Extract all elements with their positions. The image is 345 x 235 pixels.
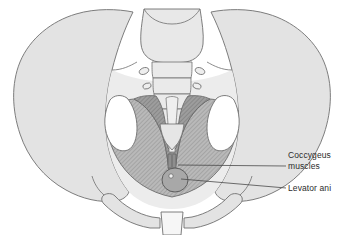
label-levator-ani: Levator ani — [288, 183, 331, 194]
left-sacral-ala — [112, 62, 137, 70]
pelvis-diagram — [0, 0, 345, 235]
anatomical-figure: Coccygeus muscles Levator ani — [0, 0, 345, 235]
label-coccygeus-muscles: Coccygeus muscles — [288, 150, 331, 171]
label-coccygeus-line1: Coccygeus — [288, 150, 331, 161]
label-levator-line1: Levator ani — [288, 183, 331, 194]
sacrum-upper — [141, 9, 204, 63]
pubic-symphysis — [161, 212, 183, 235]
right-sacral-ala — [207, 62, 232, 70]
anal-canal — [162, 168, 188, 192]
anal-canal-lumen — [169, 174, 173, 178]
label-coccygeus-line2: muscles — [288, 161, 331, 172]
